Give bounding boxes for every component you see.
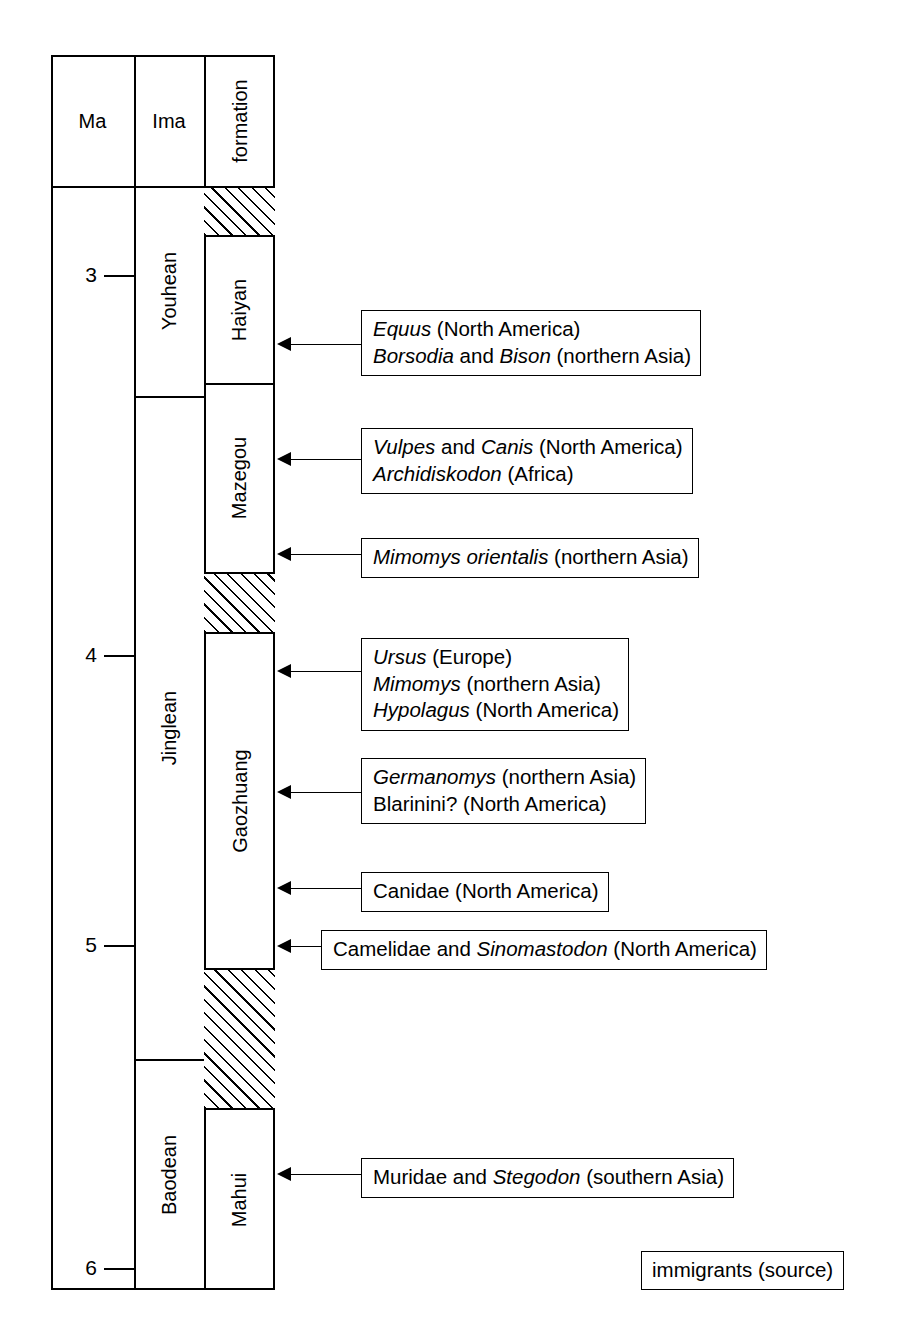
leader-line-event-canidae <box>290 888 361 890</box>
axis-tick-label-3: 3 <box>60 264 97 285</box>
formation-hiatus-1 <box>204 186 275 237</box>
arrow-head-event-mimomys-orientalis <box>277 547 291 561</box>
arrow-head-event-vulpes <box>277 452 291 466</box>
axis-tick-line-6 <box>104 1268 134 1270</box>
callout-event-equus: Equus (North America) Borsodia and Bison… <box>361 310 701 376</box>
arrow-head-event-ursus <box>277 664 291 678</box>
leader-line-event-camelidae <box>290 946 321 948</box>
callout-event-vulpes: Vulpes and Canis (North America) Archidi… <box>361 428 693 494</box>
callout-line: Germanomys (northern Asia) <box>373 764 636 791</box>
callout-line: Mimomys orientalis (northern Asia) <box>373 544 689 571</box>
arrow-head-event-canidae <box>277 881 291 895</box>
callout-line: Borsodia and Bison (northern Asia) <box>373 343 691 370</box>
callout-event-muridae: Muridae and Stegodon (southern Asia) <box>361 1158 734 1198</box>
axis-tick-label-6: 6 <box>60 1257 97 1278</box>
arrow-head-event-germanomys <box>277 785 291 799</box>
legend-label: immigrants (source) <box>652 1258 833 1281</box>
ima-boundary-youhean-jinglean <box>134 396 204 398</box>
column-divider-ma-ima <box>134 55 136 1290</box>
arrow-head-event-camelidae <box>277 939 291 953</box>
formation-hiatus-3 <box>204 968 275 1110</box>
leader-line-event-germanomys <box>290 792 361 794</box>
formation-boundary-haiyan-mazegou <box>204 383 275 385</box>
leader-line-event-muridae <box>290 1174 361 1176</box>
callout-line: Blarinini? (North America) <box>373 791 636 818</box>
legend-immigrants: immigrants (source) <box>641 1251 844 1290</box>
callout-event-ursus: Ursus (Europe) Mimomys (northern Asia) H… <box>361 638 629 731</box>
axis-tick-label-4: 4 <box>60 644 97 665</box>
callout-event-germanomys: Germanomys (northern Asia) Blarinini? (N… <box>361 758 646 824</box>
callout-line: Archidiskodon (Africa) <box>373 461 683 488</box>
axis-tick-line-4 <box>104 655 134 657</box>
callout-line: Mimomys (northern Asia) <box>373 671 619 698</box>
callout-line: Camelidae and Sinomastodon (North Americ… <box>333 936 757 963</box>
formation-hiatus-2 <box>204 572 275 634</box>
leader-line-event-mimomys-orientalis <box>290 554 361 556</box>
callout-line: Vulpes and Canis (North America) <box>373 434 683 461</box>
leader-line-event-ursus <box>290 671 361 673</box>
callout-event-mimomys-orientalis: Mimomys orientalis (northern Asia) <box>361 538 699 578</box>
figure-canvas: Ma Ima formation Youhean Jinglean Baodea… <box>0 0 919 1338</box>
axis-tick-label-5: 5 <box>60 934 97 955</box>
callout-event-canidae: Canidae (North America) <box>361 872 609 912</box>
ima-boundary-jinglean-baodean <box>134 1059 204 1061</box>
leader-line-event-equus <box>290 344 361 346</box>
callout-event-camelidae: Camelidae and Sinomastodon (North Americ… <box>321 930 767 970</box>
arrow-head-event-muridae <box>277 1167 291 1181</box>
arrow-head-event-equus <box>277 337 291 351</box>
callout-line: Equus (North America) <box>373 316 691 343</box>
callout-line: Ursus (Europe) <box>373 644 619 671</box>
callout-line: Hypolagus (North America) <box>373 697 619 724</box>
axis-tick-line-5 <box>104 945 134 947</box>
callout-line: Muridae and Stegodon (southern Asia) <box>373 1164 724 1191</box>
leader-line-event-vulpes <box>290 459 361 461</box>
axis-tick-line-3 <box>104 275 134 277</box>
callout-line: Canidae (North America) <box>373 878 599 905</box>
